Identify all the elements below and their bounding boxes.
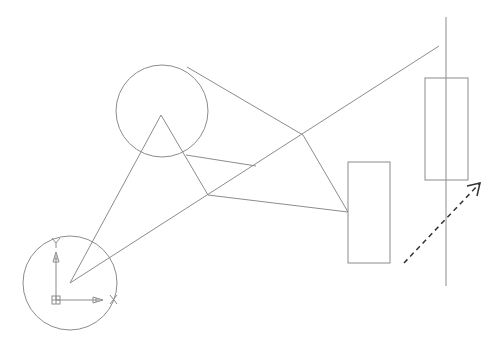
y-axis-label <box>52 238 60 248</box>
link-b-to-rect[interactable] <box>208 195 348 212</box>
long-diagonal[interactable] <box>70 46 439 283</box>
triangle-right-edge[interactable] <box>161 115 208 195</box>
ucs-icon <box>52 238 117 304</box>
tangent-line[interactable] <box>187 67 303 135</box>
drawing-canvas[interactable] <box>0 0 504 348</box>
large-circle[interactable] <box>116 65 208 157</box>
dashed-arrow[interactable] <box>404 183 480 263</box>
link-a-to-rect[interactable] <box>303 135 348 212</box>
short-link[interactable] <box>186 155 256 166</box>
rect-lower[interactable] <box>348 162 390 263</box>
x-axis-label <box>110 295 117 304</box>
triangle-left-edge[interactable] <box>70 115 161 283</box>
